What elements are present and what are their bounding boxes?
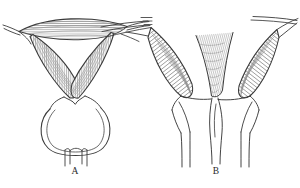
panel-label-a: A — [65, 166, 85, 176]
panel-label-b: B — [206, 166, 226, 176]
figure-container: A B — [0, 0, 300, 188]
anatomical-diagram-svg — [0, 0, 300, 188]
